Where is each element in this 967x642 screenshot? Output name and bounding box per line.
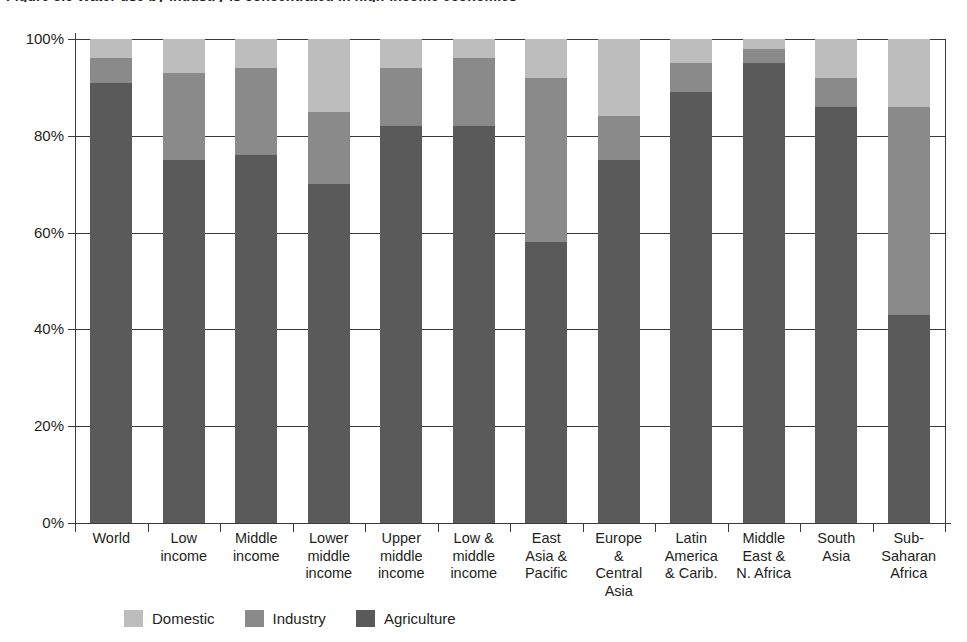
y-tick-mark (68, 426, 76, 427)
bar-segment-domestic (235, 39, 277, 68)
bar-segment-agriculture (670, 92, 712, 523)
bar-middle-income (235, 39, 277, 523)
bar-low-income (163, 39, 205, 523)
y-tick-mark (68, 329, 76, 330)
legend-swatch-domestic (124, 610, 143, 627)
legend-label: Industry (273, 610, 326, 627)
bar-segment-industry (380, 68, 422, 126)
bar-segment-agriculture (598, 160, 640, 523)
legend-swatch-industry (245, 610, 264, 627)
x-axis-label: South Asia (800, 530, 873, 565)
bar-segment-agriculture (525, 242, 567, 523)
bar-segment-domestic (670, 39, 712, 63)
bar-segment-agriculture (235, 155, 277, 523)
y-tick-label: 80% (2, 127, 64, 144)
x-axis-label: Middle East & N. Africa (728, 530, 801, 583)
y-axis-line (75, 33, 76, 529)
bar-segment-industry (598, 116, 640, 160)
bar-segment-industry (163, 73, 205, 160)
bar-segment-industry (235, 68, 277, 155)
bar-segment-domestic (598, 39, 640, 116)
bar-segment-industry (308, 112, 350, 185)
bar-segment-domestic (90, 39, 132, 58)
x-axis-label: Sub- Saharan Africa (873, 530, 946, 583)
bar-segment-domestic (525, 39, 567, 78)
bar-segment-industry (670, 63, 712, 92)
bar-middle-east---n--africa (743, 39, 785, 523)
x-axis-label: Low & middle income (438, 530, 511, 583)
bar-low---middle-income (453, 39, 495, 523)
x-axis-label: Latin America & Carib. (655, 530, 728, 583)
x-axis-label: East Asia & Pacific (510, 530, 583, 583)
y-tick-label: 20% (2, 417, 64, 434)
y-tick-label: 100% (2, 30, 64, 47)
bar-east-asia---pacific (525, 39, 567, 523)
bar-segment-industry (888, 107, 930, 315)
bar-lower-middle-income (308, 39, 350, 523)
bar-segment-domestic (453, 39, 495, 58)
x-axis-label: World (75, 530, 148, 548)
bar-segment-agriculture (743, 63, 785, 523)
bar-segment-agriculture (163, 160, 205, 523)
bar-segment-industry (815, 78, 857, 107)
x-axis-label: Upper middle income (365, 530, 438, 583)
bar-upper-middle-income (380, 39, 422, 523)
bar-segment-industry (453, 58, 495, 126)
bar-segment-domestic (380, 39, 422, 68)
bar-segment-agriculture (90, 83, 132, 523)
x-axis-label: Europe & Central Asia (583, 530, 656, 600)
x-axis-label: Middle income (220, 530, 293, 565)
bar-segment-domestic (815, 39, 857, 78)
legend-item-industry[interactable]: Industry (245, 610, 326, 627)
bar-segment-industry (90, 58, 132, 82)
x-axis-label: Lower middle income (293, 530, 366, 583)
bar-europe---central-asia (598, 39, 640, 523)
y-tick-label: 40% (2, 320, 64, 337)
bar-segment-industry (525, 78, 567, 243)
legend-label: Agriculture (384, 610, 456, 627)
bar-segment-domestic (743, 39, 785, 49)
legend-label: Domestic (152, 610, 215, 627)
stacked-bar-chart: 0%20%40%60%80%100% WorldLow incomeMiddle… (0, 0, 967, 642)
bar-segment-domestic (308, 39, 350, 112)
bar-segment-domestic (888, 39, 930, 107)
y-tick-label: 0% (2, 514, 64, 531)
legend-item-domestic[interactable]: Domestic (124, 610, 215, 627)
bar-segment-agriculture (453, 126, 495, 523)
bar-segment-industry (743, 49, 785, 64)
x-axis-label: Low income (148, 530, 221, 565)
x-tick-mark (945, 523, 946, 532)
legend-swatch-agriculture (356, 610, 375, 627)
bar-sub--saharan-africa (888, 39, 930, 523)
bar-segment-domestic (163, 39, 205, 73)
y-tick-mark (68, 233, 76, 234)
y-tick-mark (68, 39, 76, 40)
bar-segment-agriculture (380, 126, 422, 523)
bar-segment-agriculture (815, 107, 857, 523)
plot-right-border (945, 39, 946, 523)
bar-segment-agriculture (308, 184, 350, 523)
y-tick-label: 60% (2, 224, 64, 241)
y-tick-mark (68, 136, 76, 137)
bar-world (90, 39, 132, 523)
bar-south-asia (815, 39, 857, 523)
legend-item-agriculture[interactable]: Agriculture (356, 610, 456, 627)
chart-legend: DomesticIndustryAgriculture (124, 610, 456, 627)
bar-latin-america---carib- (670, 39, 712, 523)
bar-segment-agriculture (888, 315, 930, 523)
